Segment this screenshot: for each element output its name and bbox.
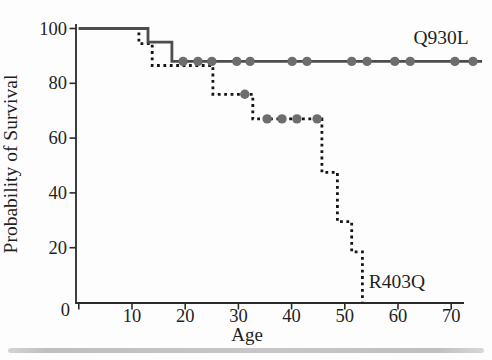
x-tick-label-50: 50 — [336, 306, 355, 326]
censor-mark-q930l — [193, 57, 202, 66]
y-tick-label-20: 20 — [49, 238, 68, 258]
y-tick-label-100: 100 — [39, 19, 67, 39]
censor-mark-q930l — [302, 57, 311, 66]
censor-mark-q930l — [468, 57, 477, 66]
censor-mark-q930l — [406, 57, 415, 66]
censor-mark-r403q — [312, 114, 321, 123]
x-axis-title: Age — [231, 324, 263, 345]
series-label-r403q: R403Q — [369, 271, 425, 292]
censor-mark-r403q — [292, 114, 301, 123]
censor-mark-q930l — [450, 57, 459, 66]
censor-mark-q930l — [232, 57, 241, 66]
axis-lines — [76, 24, 464, 303]
censor-mark-q930l — [207, 57, 216, 66]
x-tick-label-10: 10 — [123, 306, 142, 326]
y-tick-label-40: 40 — [49, 183, 68, 203]
y-tick-label-80: 80 — [49, 73, 68, 93]
censor-mark-r403q — [240, 90, 249, 99]
curve-r403q — [79, 29, 363, 303]
x-tick-label-20: 20 — [176, 306, 195, 326]
censor-mark-q930l — [245, 57, 254, 66]
x-tick-label-70: 70 — [442, 306, 461, 326]
survival-plot-svg: 20406080100010203040506070AgeProbability… — [0, 0, 492, 360]
censor-mark-q930l — [178, 57, 187, 66]
figure-canvas: 20406080100010203040506070AgeProbability… — [0, 0, 492, 360]
x-tick-label-40: 40 — [282, 306, 301, 326]
x-tick-label-30: 30 — [229, 306, 248, 326]
censor-mark-q930l — [287, 57, 296, 66]
bottom-divider-bar — [8, 348, 484, 353]
censor-mark-q930l — [390, 57, 399, 66]
censor-mark-r403q — [277, 114, 286, 123]
origin-label: 0 — [61, 300, 70, 320]
x-tick-label-60: 60 — [389, 306, 408, 326]
censor-mark-r403q — [262, 114, 271, 123]
series-label-q930l: Q930L — [413, 27, 468, 48]
y-axis-title: Probability of Survival — [0, 74, 21, 253]
censor-mark-q930l — [347, 57, 356, 66]
y-tick-label-60: 60 — [49, 128, 68, 148]
censor-mark-q930l — [362, 57, 371, 66]
